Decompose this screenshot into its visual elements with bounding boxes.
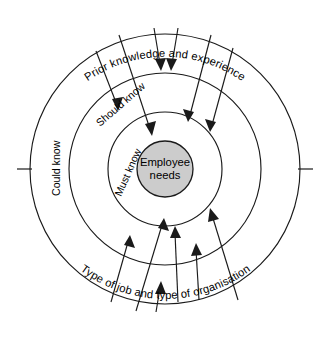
diagram-canvas: Employee needs Could know Should know Mu… — [0, 0, 331, 340]
ring-label-could-know: Could know — [50, 140, 62, 196]
curved-label-top: Prior knowledge and experience — [82, 47, 248, 83]
core-label-line-2: needs — [150, 169, 181, 181]
concentric-rings-diagram: Employee needs Could know Should know Mu… — [0, 0, 331, 340]
curved-label-top-text: Prior knowledge and experience — [82, 47, 248, 83]
core-label-line-1: Employee — [140, 156, 190, 168]
curved-label-bottom-text: Type of job and type of organisation — [79, 262, 252, 301]
ring-label-should-know: Should know — [93, 79, 147, 128]
curved-label-bottom: Type of job and type of organisation — [79, 262, 252, 301]
